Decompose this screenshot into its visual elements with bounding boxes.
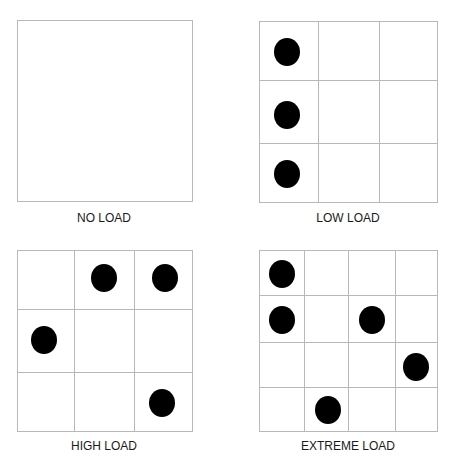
load-dot <box>91 264 117 292</box>
load-dot <box>149 389 175 417</box>
load-dot <box>274 160 300 188</box>
load-dot <box>315 396 341 424</box>
load-dot <box>269 260 295 288</box>
load-dot <box>403 353 429 381</box>
panel-no-load <box>18 21 193 202</box>
load-dot <box>152 264 178 292</box>
load-dot <box>269 306 295 334</box>
label-no-load: NO LOAD <box>4 211 204 225</box>
load-diagram <box>0 0 452 469</box>
load-dot <box>274 38 300 66</box>
panel-frame <box>18 21 193 202</box>
load-dot <box>31 326 57 354</box>
panel-low-load <box>259 21 438 203</box>
panel-high-load <box>17 250 193 432</box>
load-dot <box>274 101 300 129</box>
label-high-load: HIGH LOAD <box>4 439 204 453</box>
load-dot <box>359 306 385 334</box>
panel-extreme-load <box>259 250 438 432</box>
label-low-load: LOW LOAD <box>248 211 448 225</box>
label-extreme-load: EXTREME LOAD <box>248 439 448 453</box>
